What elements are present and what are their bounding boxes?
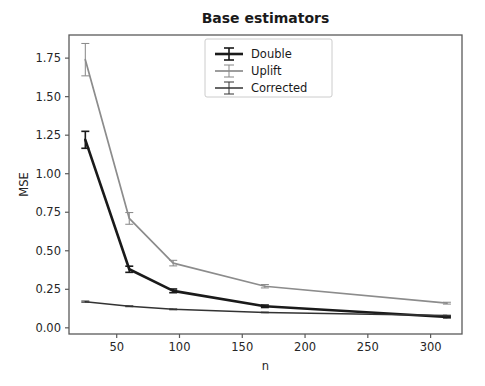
figure-canvas: 501001502002503000.000.250.500.751.001.2… xyxy=(0,0,485,386)
legend-label-double: Double xyxy=(251,47,292,61)
y-tick-label: 1.75 xyxy=(35,51,61,65)
chart-plot: 501001502002503000.000.250.500.751.001.2… xyxy=(0,0,485,386)
y-tick-label: 1.50 xyxy=(35,90,61,104)
chart-title: Base estimators xyxy=(202,10,330,26)
y-axis-title: MSE xyxy=(17,172,31,197)
y-tick-label: 0.00 xyxy=(35,321,61,335)
x-tick-label: 200 xyxy=(294,340,316,354)
x-tick-label: 150 xyxy=(231,340,253,354)
x-tick-label: 50 xyxy=(109,340,124,354)
x-tick-label: 100 xyxy=(169,340,191,354)
legend-label-uplift: Uplift xyxy=(251,64,282,78)
x-axis-title: n xyxy=(262,359,269,373)
x-tick-label: 300 xyxy=(420,340,442,354)
y-tick-label: 0.50 xyxy=(35,244,61,258)
legend-label-corrected: Corrected xyxy=(251,81,307,95)
y-tick-label: 1.00 xyxy=(35,167,61,181)
y-tick-label: 1.25 xyxy=(35,128,61,142)
y-tick-label: 0.25 xyxy=(35,282,61,296)
y-tick-label: 0.75 xyxy=(35,205,61,219)
x-tick-label: 250 xyxy=(357,340,379,354)
